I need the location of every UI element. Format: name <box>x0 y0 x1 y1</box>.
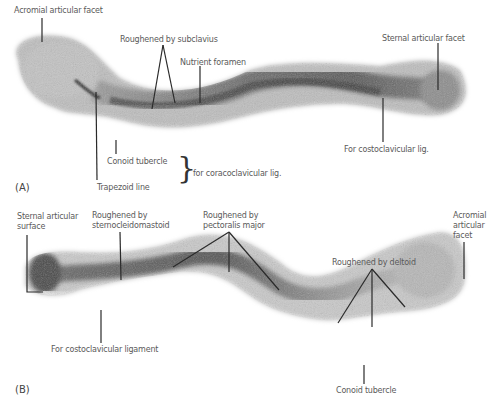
label-conoid-tubercle-a: Conoid tubercle <box>107 157 167 167</box>
label-for-costoclavicular-lig-a: For costoclavicular lig. <box>344 145 429 155</box>
label-roughened-by-pec-2: pectoralis major <box>203 221 265 231</box>
label-roughened-by-scm-1: Roughened by <box>92 211 147 221</box>
label-acromial-articular-facet-a: Acromial articular facet <box>14 6 103 16</box>
label-trapezoid-line: Trapezoid line <box>97 183 149 193</box>
label-for-costoclavicular-ligament-b: For costoclavicular ligament <box>51 345 158 355</box>
label-roughened-by-scm-2: sternocleidomastoid <box>92 221 169 231</box>
label-sternal-articular-facet: Sternal articular facet <box>382 34 465 44</box>
panel-label-b: (B) <box>15 384 30 395</box>
label-conoid-tubercle-b: Conoid tubercle <box>336 386 396 396</box>
label-nutrient-foramen: Nutrient foramen <box>180 58 246 68</box>
label-acromial-facet-b-3: facet <box>453 231 472 241</box>
label-roughened-by-pec-1: Roughened by <box>203 211 258 221</box>
clavicle-figure: Acromial articular facet Roughened by su… <box>0 0 499 410</box>
label-sternal-articular-surface-1: Sternal articular <box>17 212 78 222</box>
label-roughened-by-subclavius: Roughened by subclavius <box>120 35 218 45</box>
label-roughened-by-deltoid: Roughened by deltoid <box>332 258 416 268</box>
label-for-coracoclavicular-lig: for coracoclavicular lig. <box>193 169 281 179</box>
clavicle-inferior-view <box>0 220 499 330</box>
label-acromial-facet-b-2: articular <box>453 221 485 231</box>
label-acromial-facet-b-1: Acromial <box>453 211 486 221</box>
label-sternal-articular-surface-2: surface <box>17 222 45 232</box>
panel-label-a: (A) <box>15 182 30 193</box>
